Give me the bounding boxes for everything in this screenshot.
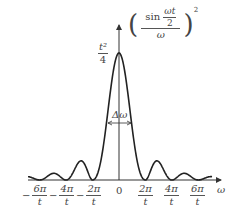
peak-label: t²4 — [98, 42, 108, 65]
x-tick-label: −6πt — [22, 184, 47, 207]
x-tick-label: −4πt — [49, 184, 74, 207]
x-axis-label: ω — [217, 185, 225, 195]
x-tick-label: 4πt — [164, 184, 179, 207]
x-tick-label: 6πt — [190, 184, 205, 207]
delta-omega-label: Δω — [112, 110, 127, 120]
sinc-squared-diagram: ( sin ωt2 ω )2 t²4 Δω ω −6πt−4πt−2πt02πt… — [0, 0, 238, 215]
x-tick-label: 2πt — [138, 184, 153, 207]
x-tick-label: −2πt — [76, 184, 101, 207]
y-axis-label: ( sin ωt2 ω )2 — [128, 7, 198, 40]
x-tick-label: 0 — [116, 186, 122, 196]
